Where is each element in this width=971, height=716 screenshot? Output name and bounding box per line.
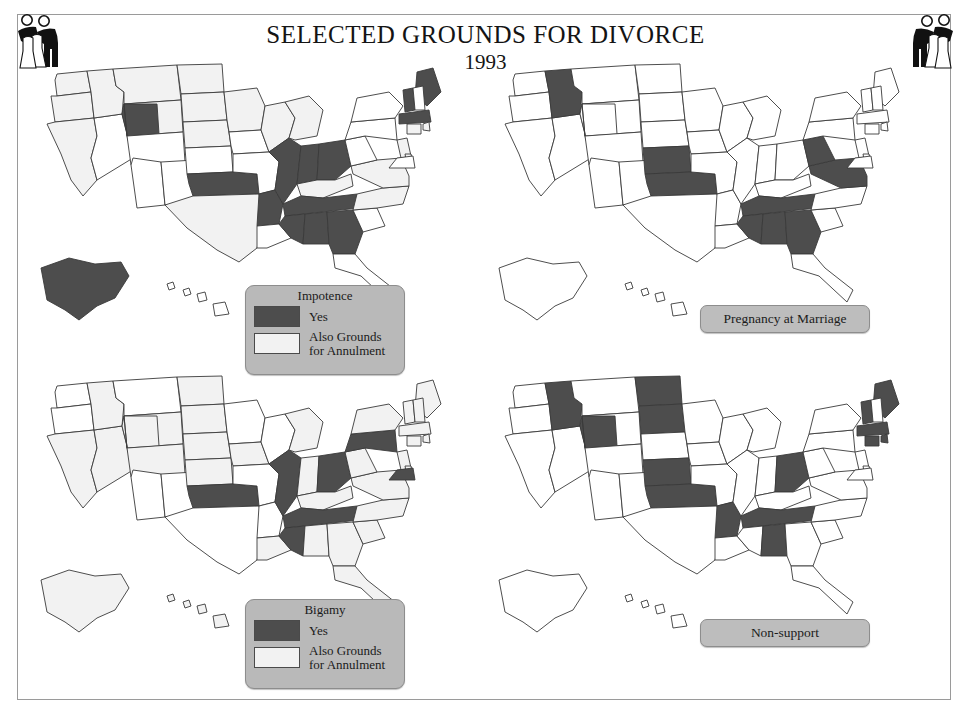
state-hi[interactable] — [625, 594, 687, 628]
state-ok[interactable] — [187, 172, 259, 196]
state-ks[interactable] — [643, 458, 691, 486]
state-tx[interactable] — [623, 506, 723, 574]
map-legend-bigamy: Bigamy Yes Also Grounds for Annulment — [245, 599, 405, 689]
state-fl[interactable] — [791, 254, 853, 302]
state-tx[interactable] — [165, 194, 265, 262]
state-ne[interactable] — [641, 432, 689, 460]
state-sd[interactable] — [181, 92, 227, 122]
state-ne[interactable] — [183, 120, 231, 148]
state-ct[interactable] — [407, 436, 421, 446]
state-sd[interactable] — [639, 404, 685, 434]
state-ok[interactable] — [645, 484, 717, 508]
state-tx[interactable] — [165, 506, 265, 574]
legend-label-annulment: Also Grounds for Annulment — [309, 644, 385, 671]
state-nc[interactable] — [811, 186, 867, 210]
state-ma[interactable] — [857, 110, 889, 124]
state-in[interactable] — [755, 144, 777, 184]
state-ks[interactable] — [185, 146, 233, 174]
map-legend-non-support: Non-support — [700, 619, 870, 647]
state-hi[interactable] — [167, 282, 229, 316]
state-hi[interactable] — [625, 282, 687, 316]
state-ca[interactable] — [47, 430, 97, 508]
state-ri[interactable] — [423, 122, 430, 131]
state-ca[interactable] — [505, 118, 555, 196]
state-ks[interactable] — [643, 146, 691, 174]
state-ct[interactable] — [407, 124, 421, 134]
state-nd[interactable] — [635, 64, 682, 94]
state-or[interactable] — [51, 404, 94, 434]
state-ne[interactable] — [183, 432, 231, 460]
state-az[interactable] — [589, 158, 623, 208]
state-ny[interactable] — [809, 92, 861, 122]
state-wv[interactable] — [803, 448, 835, 478]
state-al[interactable] — [303, 212, 329, 244]
state-wv[interactable] — [345, 136, 377, 166]
legend-row-yes: Yes — [254, 620, 404, 641]
state-mn[interactable] — [682, 400, 723, 444]
state-ct[interactable] — [865, 124, 879, 134]
state-nh[interactable] — [413, 398, 425, 422]
state-oh[interactable] — [317, 452, 351, 492]
state-ok[interactable] — [187, 484, 259, 508]
legend-swatch-annulment — [254, 333, 300, 354]
state-nc[interactable] — [811, 498, 867, 522]
state-ri[interactable] — [881, 434, 888, 443]
state-or[interactable] — [509, 404, 552, 434]
state-hi[interactable] — [167, 594, 229, 628]
state-nh[interactable] — [871, 86, 883, 110]
state-ri[interactable] — [423, 434, 430, 443]
state-oh[interactable] — [775, 140, 809, 180]
state-in[interactable] — [297, 456, 319, 496]
state-tx[interactable] — [623, 194, 723, 262]
state-ny[interactable] — [351, 404, 403, 434]
state-mn[interactable] — [224, 400, 265, 444]
state-ks[interactable] — [185, 458, 233, 486]
state-al[interactable] — [303, 524, 329, 556]
state-in[interactable] — [755, 456, 777, 496]
state-ny[interactable] — [351, 92, 403, 122]
state-mn[interactable] — [682, 88, 723, 132]
state-mn[interactable] — [224, 88, 265, 132]
state-wv[interactable] — [345, 448, 377, 478]
state-sd[interactable] — [181, 404, 227, 434]
state-nh[interactable] — [413, 86, 425, 110]
state-ak[interactable] — [41, 258, 129, 320]
state-oh[interactable] — [317, 140, 351, 180]
state-az[interactable] — [589, 470, 623, 520]
state-wv[interactable] — [803, 136, 835, 166]
state-oh[interactable] — [775, 452, 809, 492]
state-nd[interactable] — [635, 376, 682, 406]
state-sd[interactable] — [639, 92, 685, 122]
legend-swatch-annulment — [254, 647, 300, 668]
state-ok[interactable] — [645, 172, 717, 196]
state-ak[interactable] — [499, 570, 587, 632]
state-ma[interactable] — [857, 422, 889, 436]
state-or[interactable] — [509, 92, 552, 122]
state-fl[interactable] — [791, 566, 853, 614]
maps-grid — [17, 62, 951, 692]
state-ne[interactable] — [641, 120, 689, 148]
state-az[interactable] — [131, 158, 165, 208]
state-in[interactable] — [297, 144, 319, 184]
state-ca[interactable] — [47, 118, 97, 196]
state-ak[interactable] — [499, 258, 587, 320]
legend-title: Pregnancy at Marriage — [724, 311, 847, 327]
state-nd[interactable] — [177, 376, 224, 406]
state-or[interactable] — [51, 92, 94, 122]
state-ny[interactable] — [809, 404, 861, 434]
state-al[interactable] — [761, 212, 787, 244]
state-ma[interactable] — [399, 422, 431, 436]
state-nd[interactable] — [177, 64, 224, 94]
state-az[interactable] — [131, 470, 165, 520]
state-ma[interactable] — [399, 110, 431, 124]
state-nc[interactable] — [353, 498, 409, 522]
legend-label-annulment-line2: for Annulment — [309, 344, 385, 357]
state-al[interactable] — [761, 524, 787, 556]
state-ca[interactable] — [505, 430, 555, 508]
state-ak[interactable] — [41, 570, 129, 632]
state-ri[interactable] — [881, 122, 888, 131]
legend-title: Impotence — [246, 286, 404, 303]
state-nc[interactable] — [353, 186, 409, 210]
state-nh[interactable] — [871, 398, 883, 422]
state-ct[interactable] — [865, 436, 879, 446]
